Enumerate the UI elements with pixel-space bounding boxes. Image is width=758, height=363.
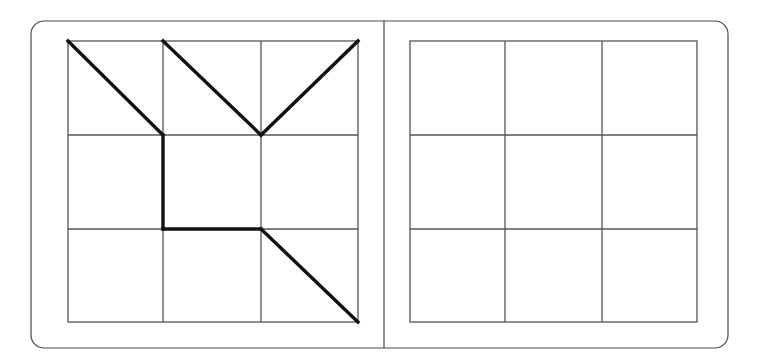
- right-panel-cell-r2c1[interactable]: [410, 135, 505, 229]
- right-panel-cell-r1c2[interactable]: [505, 41, 602, 135]
- answer-panel: [410, 41, 697, 322]
- right-panel-cell-r3c1[interactable]: [410, 229, 505, 322]
- puzzle-canvas: [0, 0, 758, 363]
- left-panel-cell-r2c2[interactable]: [163, 135, 261, 229]
- left-panel-cell-r3c1[interactable]: [68, 229, 163, 322]
- left-panel-cell-r2c3[interactable]: [261, 135, 358, 229]
- right-panel-cell-r3c3[interactable]: [602, 229, 697, 322]
- right-panel-cell-r2c3[interactable]: [602, 135, 697, 229]
- right-panel-cell-r1c3[interactable]: [602, 41, 697, 135]
- right-panel-cell-r1c1[interactable]: [410, 41, 505, 135]
- pattern-panel: [68, 41, 358, 322]
- left-panel-cell-r2c1[interactable]: [68, 135, 163, 229]
- left-panel-cell-r3c2[interactable]: [163, 229, 261, 322]
- right-panel-cell-r3c2[interactable]: [505, 229, 602, 322]
- right-panel-cell-r2c2[interactable]: [505, 135, 602, 229]
- puzzle-scene: [0, 0, 758, 363]
